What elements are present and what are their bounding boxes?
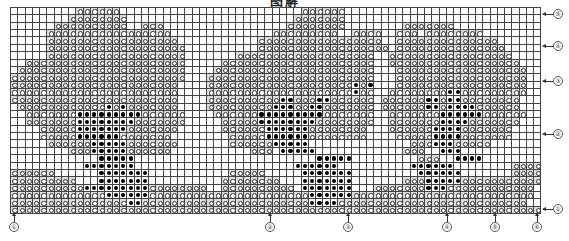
- ring-stitch-cell: [360, 30, 367, 37]
- ring-stitch-cell: [69, 67, 76, 74]
- dot-stitch-cell: [345, 155, 352, 162]
- ring-stitch-cell: [403, 104, 410, 111]
- ring-stitch-cell: [105, 30, 112, 37]
- empty-cell: [258, 30, 265, 37]
- ring-stitch-cell: [156, 111, 163, 118]
- empty-cell: [62, 15, 69, 22]
- ring-stitch-cell: [214, 82, 221, 89]
- ring-stitch-cell: [491, 199, 498, 206]
- ring-stitch-cell: [62, 23, 69, 30]
- empty-cell: [200, 8, 207, 15]
- ring-stitch-cell: [432, 192, 439, 199]
- ring-stitch-cell: [236, 177, 243, 184]
- ring-stitch-cell: [338, 52, 345, 59]
- ring-stitch-cell: [316, 45, 323, 52]
- empty-cell: [193, 23, 200, 30]
- ring-stitch-cell: [18, 104, 25, 111]
- ring-stitch-cell: [520, 111, 527, 118]
- empty-cell: [200, 82, 207, 89]
- ring-stitch-cell: [244, 60, 251, 67]
- ring-stitch-cell: [18, 96, 25, 103]
- ring-stitch-cell: [55, 185, 62, 192]
- arrow-left-icon: [543, 209, 553, 210]
- ring-stitch-cell: [113, 52, 120, 59]
- empty-cell: [527, 126, 534, 133]
- empty-cell: [527, 96, 534, 103]
- ring-stitch-cell: [62, 199, 69, 206]
- empty-cell: [18, 15, 25, 22]
- ring-stitch-cell: [164, 185, 171, 192]
- dot-stitch-cell: [454, 155, 461, 162]
- ring-stitch-cell: [222, 185, 229, 192]
- ring-stitch-cell: [287, 60, 294, 67]
- dot-stitch-cell: [316, 177, 323, 184]
- ring-stitch-cell: [476, 45, 483, 52]
- empty-cell: [382, 15, 389, 22]
- ring-stitch-cell: [164, 74, 171, 81]
- ring-stitch-cell: [512, 192, 519, 199]
- empty-cell: [280, 23, 287, 30]
- ring-stitch-cell: [418, 192, 425, 199]
- ring-stitch-cell: [149, 74, 156, 81]
- empty-cell: [62, 8, 69, 15]
- dot-stitch-cell: [309, 104, 316, 111]
- empty-cell: [214, 15, 221, 22]
- ring-stitch-cell: [142, 111, 149, 118]
- ring-stitch-cell: [222, 126, 229, 133]
- empty-cell: [26, 52, 33, 59]
- ring-stitch-cell: [505, 89, 512, 96]
- ring-stitch-cell: [440, 192, 447, 199]
- empty-cell: [33, 37, 40, 44]
- ring-stitch-cell: [498, 185, 505, 192]
- dot-stitch-cell: [113, 177, 120, 184]
- empty-cell: [389, 170, 396, 177]
- dot-stitch-cell: [447, 163, 454, 170]
- ring-stitch-cell: [251, 96, 258, 103]
- ring-stitch-cell: [47, 96, 54, 103]
- circled-number-label: ①: [9, 222, 19, 232]
- ring-stitch-cell: [396, 30, 403, 37]
- ring-stitch-cell: [396, 111, 403, 118]
- empty-cell: [11, 67, 18, 74]
- dot-stitch-cell: [302, 170, 309, 177]
- dot-stitch-cell: [76, 126, 83, 133]
- empty-cell: [222, 140, 229, 147]
- empty-cell: [258, 23, 265, 30]
- empty-cell: [207, 133, 214, 140]
- ring-stitch-cell: [352, 52, 359, 59]
- ring-stitch-cell: [360, 45, 367, 52]
- arrow-up-icon: [537, 214, 538, 222]
- dot-stitch-cell: [323, 185, 330, 192]
- ring-stitch-cell: [214, 111, 221, 118]
- ring-stitch-cell: [62, 185, 69, 192]
- ring-stitch-cell: [323, 67, 330, 74]
- ring-stitch-cell: [491, 104, 498, 111]
- ring-stitch-cell: [98, 23, 105, 30]
- ring-stitch-cell: [352, 192, 359, 199]
- ring-stitch-cell: [352, 37, 359, 44]
- ring-stitch-cell: [40, 199, 47, 206]
- empty-cell: [55, 170, 62, 177]
- dot-stitch-cell: [113, 170, 120, 177]
- empty-cell: [200, 155, 207, 162]
- ring-stitch-cell: [55, 60, 62, 67]
- empty-cell: [185, 60, 192, 67]
- ring-stitch-cell: [127, 67, 134, 74]
- ring-stitch-cell: [447, 192, 454, 199]
- ring-stitch-cell: [461, 52, 468, 59]
- ring-stitch-cell: [273, 185, 280, 192]
- empty-cell: [345, 8, 352, 15]
- ring-stitch-cell: [418, 96, 425, 103]
- dot-stitch-cell: [432, 170, 439, 177]
- ring-stitch-cell: [251, 60, 258, 67]
- ring-stitch-cell: [265, 140, 272, 147]
- ring-stitch-cell: [367, 199, 374, 206]
- ring-stitch-cell: [200, 199, 207, 206]
- ring-stitch-cell: [105, 23, 112, 30]
- empty-cell: [193, 8, 200, 15]
- dot-stitch-cell: [135, 185, 142, 192]
- ring-stitch-cell: [461, 192, 468, 199]
- ring-stitch-cell: [505, 104, 512, 111]
- ring-stitch-cell: [512, 118, 519, 125]
- ring-stitch-cell: [345, 45, 352, 52]
